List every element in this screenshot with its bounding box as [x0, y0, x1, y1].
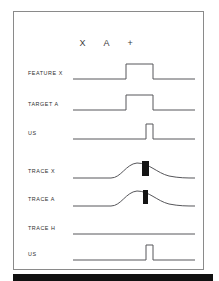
figure-frame: X A + FEATURE X TARGET A US [13, 11, 204, 270]
signal-label-us-bottom: US [28, 251, 37, 257]
signal-row-feature-x: FEATURE X [14, 58, 203, 88]
signal-row-trace-x: TRACE X [14, 156, 203, 186]
waveform-path [73, 64, 195, 79]
waveform-trace-a [73, 184, 195, 214]
signal-row-us-top: US [14, 118, 203, 148]
event-marker-bar [142, 161, 149, 176]
signal-row-trace-a: TRACE A [14, 184, 203, 214]
stimulus-header-glyphs: X A + [14, 38, 203, 48]
waveform-us-bottom [73, 239, 195, 269]
signal-row-us-bottom: US [14, 239, 203, 269]
waveform-feature-x [73, 58, 195, 88]
event-marker-bar [143, 190, 148, 204]
waveform-target-a [73, 89, 195, 119]
signal-label-target-a: TARGET A [28, 101, 59, 107]
signal-plot-us-top [73, 118, 195, 148]
signal-plot-target-a [73, 89, 195, 119]
signal-plot-us-bottom [73, 239, 195, 269]
signal-label-trace-x: TRACE X [28, 168, 55, 174]
signal-plot-feature-x [73, 58, 195, 88]
signal-label-trace-a: TRACE A [28, 196, 55, 202]
signal-plot-trace-a [73, 184, 195, 214]
page-edge-strip [13, 274, 213, 281]
signal-label-us-top: US [28, 130, 37, 136]
signal-label-trace-h: TRACE H [28, 225, 56, 231]
waveform-path [73, 163, 195, 178]
waveform-path [73, 191, 195, 206]
waveform-trace-x [73, 156, 195, 186]
signal-plot-trace-x [73, 156, 195, 186]
waveform-path [73, 95, 195, 110]
waveform-path [73, 124, 195, 139]
waveform-path [73, 245, 195, 260]
signal-label-feature-x: FEATURE X [28, 70, 63, 76]
signal-row-target-a: TARGET A [14, 89, 203, 119]
figure-canvas: X A + FEATURE X TARGET A US [0, 0, 219, 281]
waveform-us-top [73, 118, 195, 148]
